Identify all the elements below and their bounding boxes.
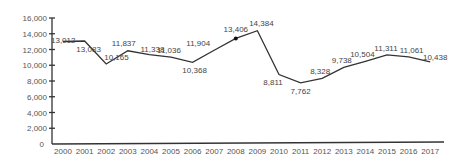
data-label: 14,384 [249,19,274,28]
data-label: 13,083 [76,45,101,54]
line-chart: 02,0004,0006,0008,00010,00012,00014,0001… [0,0,471,165]
x-tick-label: 2010 [270,147,288,156]
x-tick-label: 2015 [378,147,396,156]
x-tick-label: 2008 [227,147,245,156]
x-tick-label: 2005 [162,147,180,156]
data-label: 11,061 [400,46,424,55]
data-label: 7,762 [291,87,312,96]
data-label: 13,406 [224,25,249,34]
x-tick-label: 2001 [76,147,94,156]
x-tick-label: 2014 [357,147,375,156]
y-tick-label: 0 [40,140,45,149]
data-label: 8,811 [263,78,283,87]
y-tick-label: 10,000 [23,61,48,70]
data-label: 8,328 [310,67,331,76]
x-axis-line [52,142,444,144]
x-tick-label: 2013 [335,147,353,156]
y-tick-label: 4,000 [27,109,48,118]
x-tick-label: 2017 [421,147,439,156]
x-tick-label: 2004 [141,147,159,156]
x-tick-label: 2009 [249,147,267,156]
y-tick-label: 8,000 [27,77,48,86]
data-label: 10,438 [423,53,448,62]
y-tick-label: 14,000 [23,30,48,39]
data-label: 11,311 [374,44,398,53]
data-label: 13,012 [51,36,76,45]
x-tick-label: 2002 [97,147,115,156]
x-axis: 2000200120022003200420052006200720082009… [52,142,444,156]
x-tick-label: 2011 [292,147,310,156]
data-label: 10,165 [104,53,129,62]
y-tick-label: 6,000 [27,93,48,102]
data-labels: 13,01213,08310,16511,83711,33811,03610,3… [51,19,448,96]
x-tick-label: 2016 [400,147,418,156]
x-tick-label: 2000 [54,147,72,156]
data-point-marker [234,36,238,40]
data-label: 11,036 [157,46,181,55]
y-tick-label: 12,000 [23,46,48,55]
data-label: 10,368 [182,66,207,75]
y-tick-label: 16,000 [23,14,48,23]
x-tick-label: 2007 [205,147,223,156]
data-label: 11,837 [112,39,136,48]
x-tick-label: 2003 [119,147,137,156]
y-axis: 02,0004,0006,0008,00010,00012,00014,0001… [23,14,55,149]
x-tick-label: 2006 [184,147,202,156]
data-label: 10,504 [350,50,375,59]
x-tick-label: 2012 [313,147,331,156]
y-tick-label: 2,000 [27,124,48,133]
data-label: 11,904 [186,39,210,48]
